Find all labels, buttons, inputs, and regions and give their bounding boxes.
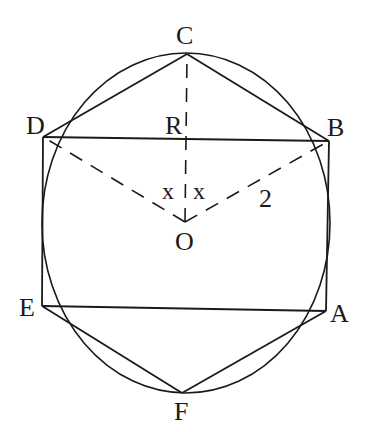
label-O: O <box>175 227 194 256</box>
label-C: C <box>176 21 193 50</box>
segment-EA <box>42 306 326 311</box>
circumscribed-circle <box>42 53 330 393</box>
label-B: B <box>327 113 344 142</box>
segment-FA <box>182 311 326 393</box>
dashed-radius-OC <box>185 56 187 222</box>
label-D: D <box>26 111 45 140</box>
dashed-radius-OB <box>185 142 327 222</box>
label-angle-right-x: x <box>193 178 205 204</box>
label-R: R <box>165 111 183 140</box>
segment-DE <box>42 137 43 306</box>
segment-BA <box>326 141 329 311</box>
segment-CB <box>187 54 329 141</box>
label-radius-2: 2 <box>259 184 272 213</box>
label-F: F <box>174 397 188 426</box>
label-E: E <box>19 293 35 322</box>
label-A: A <box>330 299 349 328</box>
label-angle-left-x: x <box>162 178 174 204</box>
geometry-diagram: C D R B x x 2 O E A F <box>0 0 372 432</box>
segment-EF <box>42 306 182 393</box>
